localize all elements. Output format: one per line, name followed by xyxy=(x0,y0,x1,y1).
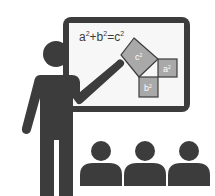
teacher-presentation-illustration: a2+b2=c2 c2 a2 b2 xyxy=(0,0,215,196)
student-3 xyxy=(168,141,210,186)
student-1 xyxy=(80,141,122,186)
student-2 xyxy=(124,141,166,186)
teacher-head xyxy=(43,41,69,67)
students xyxy=(80,141,210,186)
